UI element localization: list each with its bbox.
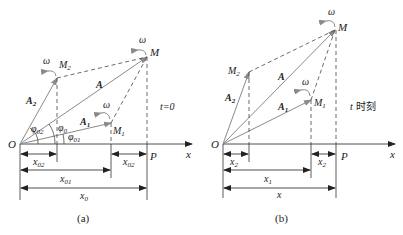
label-M: M	[337, 21, 348, 33]
label-x-axis: x	[185, 148, 191, 160]
omega-arrow-M	[138, 50, 146, 55]
panel-a: O M M2 M1 P x t=0 A A1 A2 ω ω ω φ02 φ0 φ…	[8, 34, 192, 225]
label-x-axis: x	[389, 148, 395, 160]
label-x02-right: x02	[122, 156, 135, 169]
caption-a: (a)	[77, 212, 90, 225]
label-omega-M1: ω	[302, 76, 309, 87]
label-x2-right: x2	[317, 156, 326, 169]
caption-b: (b)	[275, 212, 288, 225]
label-x0: x0	[79, 190, 88, 203]
time-label-b: t时刻	[350, 100, 376, 112]
label-A2: A2	[25, 95, 37, 108]
label-x: x	[276, 189, 282, 200]
label-phi01: φ01	[68, 131, 81, 144]
label-x01: x01	[59, 173, 71, 186]
label-A2: A2	[224, 92, 236, 105]
label-M1: M1	[112, 125, 125, 138]
label-phi0: φ0	[58, 122, 68, 135]
time-label-a: t=0	[160, 101, 175, 112]
omega-arrow-M1	[301, 90, 310, 96]
label-omega-M: ω	[328, 6, 335, 17]
label-phi02: φ02	[31, 123, 44, 136]
label-omega-M1: ω	[103, 99, 110, 110]
label-A1: A1	[277, 101, 288, 114]
label-A: A	[277, 71, 285, 82]
arc-phi01	[63, 134, 64, 144]
label-P: P	[340, 150, 348, 162]
label-M2: M2	[227, 65, 240, 78]
panel-b: O M M2 M1 P x t时刻 A A1 A2 ω ω x2 x2 x1 x…	[211, 6, 395, 225]
omega-arrow-M2	[48, 71, 56, 76]
label-x2-left: x2	[229, 156, 238, 169]
dash-M1-M	[311, 30, 335, 100]
label-M1: M1	[313, 97, 326, 110]
label-O: O	[211, 138, 219, 150]
label-x02-left: x02	[32, 156, 45, 169]
label-A1: A1	[79, 116, 90, 129]
label-O: O	[8, 138, 16, 150]
dash-M2-M	[249, 30, 335, 72]
vector-A	[223, 30, 335, 144]
label-M: M	[149, 46, 160, 58]
label-omega-M: ω	[139, 34, 146, 45]
label-omega-M2: ω	[43, 55, 50, 66]
omega-arrow-M	[326, 21, 335, 27]
label-P: P	[149, 150, 157, 162]
label-x1: x1	[263, 173, 272, 186]
phasor-diagram: O M M2 M1 P x t=0 A A1 A2 ω ω ω φ02 φ0 φ…	[0, 0, 403, 235]
dash-M1-M	[111, 57, 147, 123]
label-M2: M2	[58, 59, 71, 72]
label-A: A	[95, 79, 103, 90]
omega-arrow-M1	[101, 113, 110, 119]
arc-phi0	[49, 124, 55, 144]
